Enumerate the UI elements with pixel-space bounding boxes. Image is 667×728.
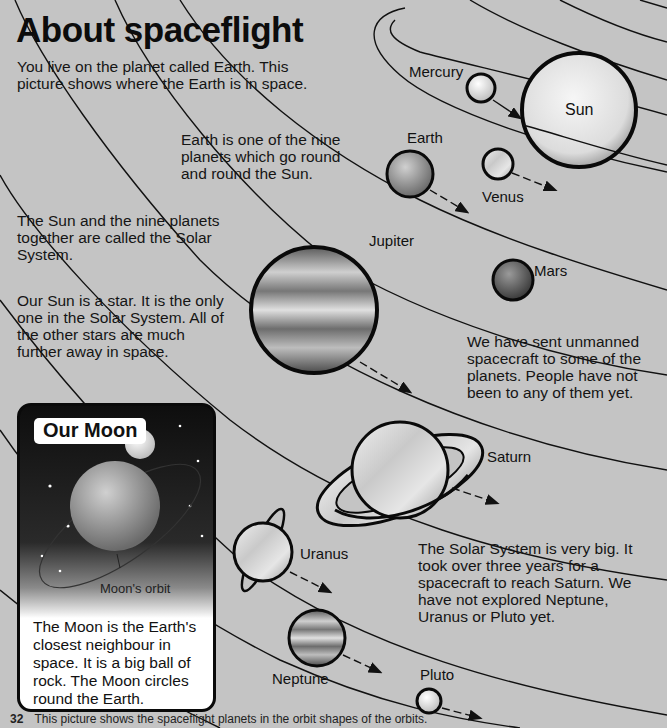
footer-caption: This picture shows the spaceflight plane…: [34, 712, 427, 726]
pluto-icon: [417, 689, 441, 713]
our-moon-panel: Our Moon Moon's orbit The Moon is the Ea…: [17, 403, 216, 712]
page-footer: 32 This picture shows the spaceflight pl…: [10, 712, 427, 726]
solar-system-size-paragraph: The Solar System is very big. It took ov…: [418, 540, 633, 625]
earth-globe-icon: [70, 461, 160, 551]
neptune-icon: [289, 610, 345, 666]
earth-label: Earth: [407, 129, 443, 146]
moon-orbit-label: Moon's orbit: [100, 581, 170, 596]
mars-icon: [493, 260, 533, 300]
page-number: 32: [10, 712, 23, 726]
uranus-label: Uranus: [300, 545, 348, 562]
unmanned-paragraph: We have sent unmanned spacecraft to some…: [467, 333, 647, 401]
jupiter-icon: [251, 247, 377, 373]
neptune-label: Neptune: [272, 670, 329, 687]
venus-label: Venus: [482, 188, 524, 205]
saturn-label: Saturn: [487, 448, 531, 465]
earth-paragraph: Earth is one of the nine planets which g…: [181, 131, 341, 182]
sun-label: Sun: [565, 101, 593, 119]
saturn-icon: [306, 416, 495, 545]
venus-icon: [483, 149, 513, 179]
solar-system-paragraph: The Sun and the nine planets together ar…: [17, 212, 222, 263]
star-paragraph: Our Sun is a star. It is the only one in…: [17, 292, 232, 360]
our-moon-title: Our Moon: [34, 418, 146, 444]
page-title: About spaceflight: [16, 10, 303, 50]
intro-paragraph: You live on the planet called Earth. Thi…: [17, 58, 317, 92]
page: About spaceflight You live on the planet…: [0, 0, 667, 728]
pluto-label: Pluto: [420, 666, 454, 683]
moon-description: The Moon is the Earth's closest neighbou…: [33, 618, 213, 708]
mars-label: Mars: [534, 262, 567, 279]
jupiter-label: Jupiter: [369, 232, 414, 249]
uranus-icon: [234, 505, 292, 595]
mercury-icon: [467, 74, 495, 102]
mercury-label: Mercury: [409, 63, 463, 80]
earth-icon: [387, 151, 433, 197]
